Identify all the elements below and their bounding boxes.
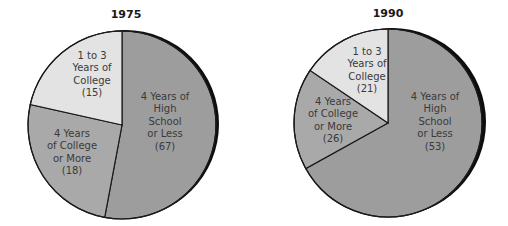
chart-title: 1975 [96, 8, 156, 21]
slice-label-college-1-3: 1 to 3 Years of College (15) [58, 50, 126, 100]
slice-label-college-4-plus: 4 Years of College or More (26) [298, 96, 368, 146]
pie-chart-1975: 1975 4 Years of High School or Less (67)… [0, 0, 254, 226]
slice-label-high-school: 4 Years of High School or Less (53) [395, 91, 475, 153]
slice-label-high-school: 4 Years of High School or Less (67) [125, 91, 205, 153]
pie-chart-1990: 1990 4 Years of High School or Less (53)… [254, 0, 508, 226]
chart-title: 1990 [358, 7, 418, 20]
slice-label-college-4-plus: 4 Years of College or More (18) [37, 128, 107, 178]
slice-label-college-1-3: 1 to 3 Years of College (21) [336, 46, 398, 96]
